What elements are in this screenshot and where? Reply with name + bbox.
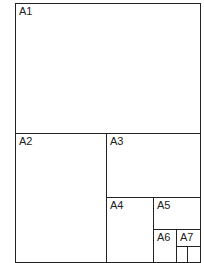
- sheet-label: A1: [19, 5, 32, 17]
- sheet-a2: A2: [15, 133, 108, 263]
- sheet-label: A2: [19, 135, 32, 147]
- sheet-a4: A4: [106, 197, 155, 263]
- sheet-label: A6: [157, 231, 170, 243]
- sheet-label: A7: [180, 231, 193, 243]
- sheet-label: A4: [110, 199, 123, 211]
- sheet-a1: A1: [15, 3, 201, 135]
- sheet-label: A3: [110, 135, 123, 147]
- sheet-a9: [187, 246, 201, 263]
- sheet-label: A5: [157, 199, 170, 211]
- sheet-a6: A6: [153, 229, 178, 263]
- sheet-a3: A3: [106, 133, 201, 199]
- sheet-a5: A5: [153, 197, 201, 231]
